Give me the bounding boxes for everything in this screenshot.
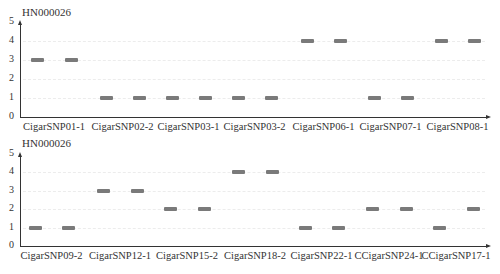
y-tick-label: 1	[4, 91, 14, 102]
x-tick-label: CigarSNP06-1	[289, 121, 359, 132]
allele-band	[31, 58, 44, 62]
gridline	[23, 172, 485, 174]
x-axis-arrow-icon	[486, 115, 491, 119]
x-tick-label: CigarSNP22-1	[287, 250, 357, 261]
allele-band	[266, 170, 279, 174]
y-tick-label: 0	[4, 239, 14, 250]
y-axis	[20, 156, 21, 246]
allele-band	[299, 226, 312, 230]
x-tick-label: CigarSNP07-1	[356, 121, 426, 132]
x-axis-arrow-icon	[486, 244, 491, 248]
y-tick-label: 3	[4, 53, 14, 64]
x-tick-label: CigarSNP12-1	[85, 250, 155, 261]
allele-band	[368, 96, 381, 100]
allele-band	[133, 96, 146, 100]
allele-band	[467, 207, 480, 211]
gridline	[23, 98, 485, 100]
x-tick-label: CigarSNP08-1	[423, 121, 493, 132]
allele-band	[468, 39, 481, 43]
allele-band	[164, 207, 177, 211]
allele-band	[400, 207, 413, 211]
y-tick-label: 1	[4, 221, 14, 232]
allele-band	[334, 39, 347, 43]
gridline	[23, 191, 485, 193]
allele-band	[199, 96, 212, 100]
y-tick-label: 2	[4, 72, 14, 83]
x-axis	[20, 246, 487, 247]
x-tick-label: CCigarSNP17-1	[421, 250, 491, 261]
x-tick-label: CigarSNP03-2	[220, 121, 290, 132]
allele-band	[232, 170, 245, 174]
y-tick-label: 5	[4, 147, 14, 158]
y-axis-arrow-icon	[18, 152, 22, 157]
allele-band	[62, 226, 75, 230]
allele-band	[100, 96, 113, 100]
allele-band	[131, 189, 144, 193]
x-tick-label: CigarSNP03-1	[154, 121, 224, 132]
y-tick-label: 4	[4, 34, 14, 45]
y-tick-label: 3	[4, 184, 14, 195]
gridline	[23, 228, 485, 230]
y-tick-label: 2	[4, 202, 14, 213]
allele-band	[97, 189, 110, 193]
x-tick-label: CigarSNP09-2	[17, 250, 87, 261]
allele-band	[433, 226, 446, 230]
allele-band	[366, 207, 379, 211]
allele-band	[301, 39, 314, 43]
allele-band	[29, 226, 42, 230]
gridline	[23, 209, 485, 211]
x-tick-label: CigarSNP15-2	[152, 250, 222, 261]
allele-band	[401, 96, 414, 100]
y-axis-arrow-icon	[18, 20, 22, 25]
y-tick-label: 0	[4, 110, 14, 121]
gridline	[23, 41, 485, 43]
allele-band	[65, 58, 78, 62]
gridline	[23, 79, 485, 81]
allele-band	[198, 207, 211, 211]
allele-band	[435, 39, 448, 43]
x-tick-label: CigarSNP18-2	[220, 250, 290, 261]
gridline	[23, 60, 485, 62]
allele-band	[232, 96, 245, 100]
y-tick-label: 5	[4, 15, 14, 26]
allele-band	[166, 96, 179, 100]
x-tick-label: CigarSNP02-2	[88, 121, 158, 132]
allele-band	[332, 226, 345, 230]
y-axis	[20, 24, 21, 117]
x-tick-label: CigarSNP01-1	[19, 121, 89, 132]
chart-title: HN000026	[22, 137, 71, 149]
allele-band	[265, 96, 278, 100]
y-tick-label: 4	[4, 165, 14, 176]
x-tick-label: CCigarSNP24-1	[354, 250, 424, 261]
x-axis	[20, 117, 487, 118]
chart-title: HN000026	[22, 6, 71, 18]
